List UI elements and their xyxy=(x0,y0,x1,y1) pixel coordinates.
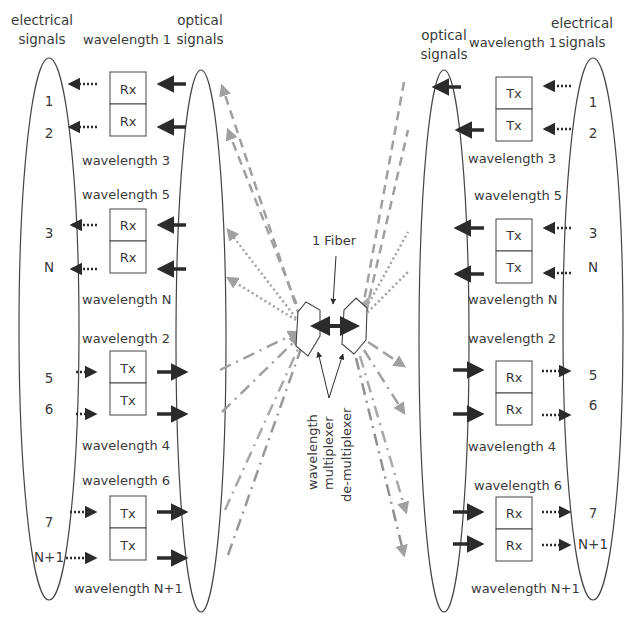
right-signal-3: 3 xyxy=(589,225,598,241)
route-left-w6 xyxy=(225,340,302,510)
route-right-w1 xyxy=(362,82,404,312)
right-signal-1: 1 xyxy=(589,94,598,110)
right-box-label-6: Rx xyxy=(506,402,523,417)
left-box-label-1: Rx xyxy=(120,82,137,97)
fiber-pointer xyxy=(333,256,336,304)
right-signal-N: N xyxy=(588,259,598,275)
route-right-wN1 xyxy=(356,358,404,555)
wdm-diagram: electrical signals optical signals wavel… xyxy=(0,0,625,623)
route-left-w3 xyxy=(228,130,302,318)
right-headers: optical signals electrical signals wavel… xyxy=(421,15,613,62)
mux-label-line1: wavelength xyxy=(305,414,320,490)
left-box-label-7: Tx xyxy=(119,506,136,521)
left-side: Rx Rx 1 2 wavelength 3 wavelength 5 Rx R… xyxy=(34,72,186,596)
right-wavelength-2-label: wavelength 2 xyxy=(468,331,556,346)
right-wavelength-N-label: wavelength N xyxy=(468,292,558,307)
right-group-2: wavelength 5 Tx Tx 3 N wavelength N xyxy=(457,188,598,307)
left-optical-ellipse xyxy=(176,70,226,612)
left-signal-6: 6 xyxy=(45,401,54,417)
left-wavelength-3-label: wavelength 3 xyxy=(82,153,170,168)
left-signal-1: 1 xyxy=(45,93,54,109)
right-signal-6: 6 xyxy=(589,397,598,413)
right-wavelength-1-label: wavelength 1 xyxy=(469,35,557,50)
right-box-label-7: Rx xyxy=(506,506,523,521)
right-group-1: Tx Tx 1 2 wavelength 3 xyxy=(435,77,597,166)
right-box-label-5: Rx xyxy=(506,370,523,385)
left-wavelength-2-label: wavelength 2 xyxy=(82,331,170,346)
left-group-3: wavelength 2 Tx Tx 5 6 wavelength 4 xyxy=(45,331,185,453)
right-box-label-8: Rx xyxy=(506,538,523,553)
fiber-label: 1 Fiber xyxy=(312,233,357,248)
left-box-label-4: Rx xyxy=(120,250,137,265)
left-box-label-8: Tx xyxy=(119,538,136,553)
route-right-w5 xyxy=(364,232,408,312)
left-wavelength-6-label: wavelength 6 xyxy=(82,473,170,488)
left-wavelength-4-label: wavelength 4 xyxy=(82,438,170,453)
multiplexer-shape xyxy=(296,302,320,356)
left-wavelength-5-label: wavelength 5 xyxy=(82,187,170,202)
left-box-label-2: Rx xyxy=(120,114,137,129)
left-wavelength-1-label: wavelength 1 xyxy=(83,32,171,47)
left-box-label-6: Tx xyxy=(119,393,136,408)
left-signal-2: 2 xyxy=(45,125,54,141)
route-right-w4 xyxy=(364,350,404,413)
right-wavelength-3-label: wavelength 3 xyxy=(468,151,556,166)
right-signal-N-plus-1: N+1 xyxy=(578,536,608,552)
right-wavelength-6-label: wavelength 6 xyxy=(474,478,562,493)
route-left-w4 xyxy=(222,336,300,412)
left-electrical-header-line1: electrical xyxy=(11,12,73,28)
right-box-label-3: Tx xyxy=(505,228,522,243)
route-left-wN xyxy=(228,278,296,320)
demux-pointer xyxy=(329,354,343,398)
route-left-wN1 xyxy=(228,340,304,555)
left-signal-N-plus-1: N+1 xyxy=(34,549,64,565)
left-group-1: Rx Rx 1 2 wavelength 3 xyxy=(45,72,186,168)
left-wavelength-N-label: wavelength N xyxy=(82,292,172,307)
right-signal-5: 5 xyxy=(589,367,598,383)
right-signal-7: 7 xyxy=(589,505,598,521)
mux-label-line3: de-multiplexer xyxy=(339,407,354,502)
right-box-label-1: Tx xyxy=(505,86,522,101)
left-signal-N: N xyxy=(44,259,54,275)
left-signal-5: 5 xyxy=(45,370,54,386)
right-side: Tx Tx 1 2 wavelength 3 wavelength 5 Tx T… xyxy=(435,77,608,596)
right-optical-ellipse xyxy=(419,70,469,612)
right-optical-header-line2: signals xyxy=(421,46,468,62)
right-group-3: wavelength 2 Rx Rx 5 6 wavelength 4 xyxy=(453,331,597,454)
right-wavelength-5-label: wavelength 5 xyxy=(474,188,562,203)
left-headers: electrical signals optical signals wavel… xyxy=(11,12,223,47)
right-electrical-header-line1: electrical xyxy=(551,15,613,31)
route-right-w2 xyxy=(368,342,404,366)
right-wavelength-4-label: wavelength 4 xyxy=(468,439,556,454)
right-electrical-header-line2: signals xyxy=(559,34,606,50)
right-box-label-2: Tx xyxy=(505,118,522,133)
left-box-label-5: Tx xyxy=(119,361,136,376)
center-assembly: 1 Fiber wavelength multiplexer de-multip… xyxy=(296,233,367,502)
left-optical-header-line2: signals xyxy=(177,31,224,47)
route-right-w3 xyxy=(366,130,408,312)
right-signal-2: 2 xyxy=(589,125,598,141)
right-optical-header-line1: optical xyxy=(421,27,466,43)
left-signal-7: 7 xyxy=(45,514,54,530)
left-group-4: wavelength 6 Tx Tx 7 N+1 wavelength N+1 xyxy=(34,473,185,596)
left-group-2: wavelength 5 Rx Rx 3 N wavelength N xyxy=(44,187,186,307)
left-signal-3: 3 xyxy=(45,225,54,241)
right-box-label-4: Tx xyxy=(505,260,522,275)
mux-label-line2: multiplexer xyxy=(321,416,336,490)
right-group-4: wavelength 6 Rx Rx 7 N+1 wavelength N+1 xyxy=(453,478,608,596)
left-box-label-3: Rx xyxy=(120,218,137,233)
right-wavelength-N-plus-1-label: wavelength N+1 xyxy=(471,581,580,596)
mux-pointer xyxy=(318,352,329,398)
left-electrical-header-line2: signals xyxy=(19,31,66,47)
left-wavelength-N-plus-1-label: wavelength N+1 xyxy=(74,581,183,596)
left-optical-header-line1: optical xyxy=(177,12,222,28)
